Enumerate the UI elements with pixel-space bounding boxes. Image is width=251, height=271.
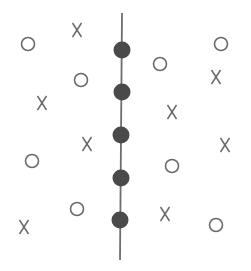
x-marker-icon [20, 220, 29, 234]
filled-dot-icon [112, 212, 129, 229]
x-marker-icon [221, 138, 230, 152]
circle-marker-icon [166, 160, 179, 173]
circle-marker-icon [22, 38, 35, 51]
x-marker-icon [83, 137, 92, 151]
x-marker-icon [73, 23, 82, 37]
filled-dot-icon [114, 42, 131, 59]
circle-marker-icon [210, 219, 223, 232]
diagram-canvas [0, 0, 251, 271]
circle-marker-icon [75, 74, 88, 87]
filled-dot-icon [113, 127, 130, 144]
circle-marker-icon [154, 58, 167, 71]
filled-dot-icon [113, 170, 130, 187]
x-marker-icon [168, 105, 177, 119]
x-marker-icon [161, 207, 170, 221]
circle-marker-icon [26, 155, 39, 168]
circle-marker-icon [71, 203, 84, 216]
separator-line [0, 0, 251, 271]
x-marker-icon [38, 96, 47, 110]
filled-dot-icon [114, 84, 131, 101]
x-marker-icon [212, 70, 221, 84]
circle-marker-icon [215, 38, 228, 51]
